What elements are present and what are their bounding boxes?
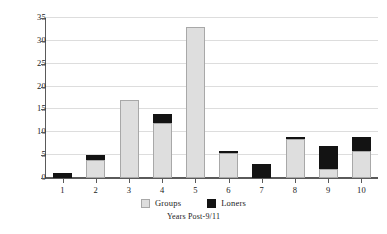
y-tick: 15: [0, 109, 46, 110]
bars-container: [46, 18, 378, 178]
y-tick-mark: [41, 87, 45, 88]
y-tick-label: 35: [4, 13, 46, 22]
y-tick: 25: [0, 64, 46, 65]
bar-segment-groups[interactable]: [352, 151, 371, 178]
x-tick-mark: [295, 179, 296, 183]
bar-group[interactable]: [153, 18, 172, 178]
y-tick-label: 5: [4, 150, 46, 159]
y-tick: 30: [0, 41, 46, 42]
x-tick-label: 9: [313, 186, 343, 195]
x-tick-mark: [96, 179, 97, 183]
x-tick-label: 1: [48, 186, 78, 195]
x-tick-label: 10: [346, 186, 376, 195]
bar-group[interactable]: [252, 18, 271, 178]
bar-group[interactable]: [86, 18, 105, 178]
legend-label: Groups: [155, 199, 181, 208]
x-tick-mark: [195, 179, 196, 183]
x-tick-label: 3: [114, 186, 144, 195]
legend-swatch-icon: [207, 199, 216, 208]
x-axis-title: Years Post-9/11: [0, 212, 387, 221]
y-tick-mark: [41, 109, 45, 110]
bar-segment-loners[interactable]: [86, 155, 105, 160]
legend-label: Loners: [221, 199, 246, 208]
x-tick-mark: [328, 179, 329, 183]
y-tick-label: 20: [4, 82, 46, 91]
y-tick: 5: [0, 155, 46, 156]
bar-segment-groups[interactable]: [319, 169, 338, 178]
bar-segment-loners[interactable]: [53, 173, 72, 178]
x-tick-label: 5: [180, 186, 210, 195]
bar-segment-loners[interactable]: [153, 114, 172, 123]
bar-segment-groups[interactable]: [153, 123, 172, 178]
bar-segment-groups[interactable]: [286, 139, 305, 178]
y-tick-label: 15: [4, 104, 46, 113]
y-tick-mark: [41, 41, 45, 42]
bar-group[interactable]: [186, 18, 205, 178]
x-tick-label: 8: [280, 186, 310, 195]
y-tick: 0: [0, 178, 46, 179]
y-tick-mark: [41, 18, 45, 19]
bar-group[interactable]: [319, 18, 338, 178]
y-tick-label: 10: [4, 127, 46, 136]
y-tick-mark: [41, 155, 45, 156]
legend-item-loners[interactable]: Loners: [207, 199, 246, 208]
legend-item-groups[interactable]: Groups: [141, 199, 181, 208]
x-tick-label: 7: [247, 186, 277, 195]
y-tick-label: 30: [4, 36, 46, 45]
bar-group[interactable]: [53, 18, 72, 178]
y-tick: 20: [0, 87, 46, 88]
y-tick-mark: [41, 132, 45, 133]
bar-segment-loners[interactable]: [286, 137, 305, 139]
bar-segment-groups[interactable]: [186, 27, 205, 178]
y-tick: 10: [0, 132, 46, 133]
bar-group[interactable]: [286, 18, 305, 178]
y-tick: 35: [0, 18, 46, 19]
chart-legend: GroupsLoners: [0, 199, 387, 208]
y-tick-mark: [41, 64, 45, 65]
bar-segment-loners[interactable]: [319, 146, 338, 169]
x-tick-label: 6: [214, 186, 244, 195]
bar-segment-loners[interactable]: [219, 151, 238, 153]
legend-swatch-icon: [141, 199, 150, 208]
x-tick-mark: [129, 179, 130, 183]
x-tick-mark: [63, 179, 64, 183]
bar-segment-loners[interactable]: [352, 137, 371, 151]
bar-segment-groups[interactable]: [86, 160, 105, 178]
x-tick-mark: [229, 179, 230, 183]
bar-segment-loners[interactable]: [252, 164, 271, 178]
x-tick-mark: [361, 179, 362, 183]
y-tick-label: 25: [4, 59, 46, 68]
x-tick-mark: [162, 179, 163, 183]
bar-group[interactable]: [352, 18, 371, 178]
bar-segment-groups[interactable]: [120, 100, 139, 178]
x-tick-label: 4: [147, 186, 177, 195]
y-tick-mark: [41, 178, 45, 179]
bar-segment-groups[interactable]: [219, 153, 238, 178]
x-tick-mark: [262, 179, 263, 183]
y-tick-label: 0: [4, 173, 46, 182]
bar-chart-figure: 05101520253035 12345678910 GroupsLoners …: [0, 0, 387, 234]
bar-group[interactable]: [219, 18, 238, 178]
x-tick-label: 2: [81, 186, 111, 195]
bar-group[interactable]: [120, 18, 139, 178]
